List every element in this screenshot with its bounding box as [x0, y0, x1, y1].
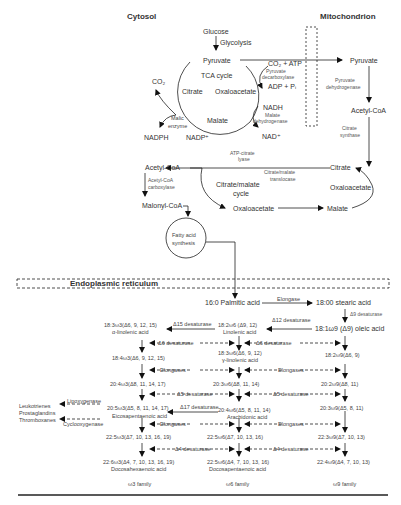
w6-20-4-1: 20:4ω6(Δ5, 8, 11, 14) — [218, 407, 271, 413]
d5-desaturase-right: Δ5 desaturase — [273, 391, 308, 397]
adp-pi: ADP + Pᵢ — [268, 83, 296, 91]
w3-20-4: 20:4ω3(Δ8, 11, 14, 17) — [110, 381, 166, 387]
alinolenic-2: α-linolenic acid — [112, 329, 149, 335]
citrate-malate-cycle-1: Citrate/malate — [216, 181, 260, 189]
w9-22-3: 22:3ω9(Δ7, 10, 13) — [318, 434, 365, 440]
malic-enzyme-label-2: enzyme — [168, 123, 187, 129]
malic-enzyme-label-1: Malic — [171, 115, 184, 121]
co2-atp: CO₂ + ATP — [268, 60, 302, 68]
cs-label-1: Citrate — [342, 126, 357, 132]
elongases-right-2: Elongases — [278, 421, 304, 427]
d4-desaturase-right: Δ4 desaturase — [273, 446, 308, 452]
w6-22-5: 22:5ω6(Δ7, 10, 13, 16) — [207, 434, 263, 440]
d6-desaturase-right: Δ6 desaturase — [256, 340, 291, 346]
w3-22-6-2: Docosahexaenoic acid — [111, 466, 166, 472]
leukotrienes: Leukotrienes — [19, 403, 51, 409]
tca-cycle: TCA cycle — [201, 72, 233, 80]
cytosol-label: Cytosol — [127, 13, 156, 21]
mitochondrion-label: Mitochondrion — [320, 13, 376, 21]
d9-desaturase: Δ9 desaturase — [350, 312, 382, 318]
w3-20-5-2: Eicosapentaenoic acid — [112, 413, 167, 419]
alinolenic-1: 18:3ω3(Δ6, 9, 12, 15) — [104, 322, 157, 328]
mito-citrate: Citrate — [330, 164, 351, 172]
w6-22-5b-2: Docosapentaenoic acid — [209, 466, 266, 472]
malate-dh-2: dehydrogenase — [253, 119, 287, 125]
linoleic-1: 18:2ω6 (Δ9, 12) — [218, 322, 257, 328]
w3-20-5-1: 20:5ω3(Δ5, 8, 11, 14, 17) — [107, 405, 169, 411]
er-label: Endoplasmic reticulum — [70, 280, 158, 288]
w6-22-5b-1: 22:5ω6(Δ4, 7, 10, 13, 16) — [207, 459, 269, 465]
pyruvate: Pyruvate — [203, 57, 231, 65]
pdh-label-2: dehydrogenase — [326, 85, 360, 91]
w3-22-5: 22:5ω3(Δ7, 10, 13, 16, 19) — [106, 434, 171, 440]
citrate-malate-cycle-2: cycle — [233, 190, 249, 198]
elongases-left-2: Elongases — [160, 421, 186, 427]
fas-label-2: synthesis — [172, 240, 195, 246]
pyruvate-decarboxylase-2: decarboxylase — [262, 75, 294, 81]
w3-18-4: 18:4ω3(Δ6, 9, 12, 15) — [112, 355, 165, 361]
mito-oxaloacetate: Oxaloacetate — [330, 184, 371, 192]
palmitic-acid: 16:0 Palmitic acid — [205, 299, 260, 307]
w3-22-6-1: 22:6ω3(Δ4, 7, 10, 13, 16, 19) — [103, 459, 174, 465]
w6-18-3-2: γ-linolenic acid — [222, 357, 258, 363]
w6-family: ω6 family — [226, 481, 249, 487]
w6-18-3-1: 18:3ω6(Δ6, 9, 12) — [218, 350, 262, 356]
d5-desaturase-left: Δ5 desaturase — [177, 391, 212, 397]
pdh-label-1: Pyruvate — [335, 78, 355, 84]
glycolysis: Glycolysis — [220, 39, 252, 47]
nadph: NADPH — [144, 134, 169, 142]
mito-pyruvate: Pyruvate — [350, 57, 378, 65]
malonyl-coa: Malonyl-CoA — [142, 202, 182, 210]
lipoxygenase: Lipoxygenase — [67, 398, 101, 404]
translocase-2: translocase — [270, 177, 296, 183]
w9-22-4: 22:4ω9(Δ4, 7, 10, 13) — [317, 459, 370, 465]
w9-family: ω9 family — [333, 481, 356, 487]
translocase-1: Citrate/malate — [264, 170, 295, 176]
w9-18-2: 18:2ω9(Δ6, 9) — [325, 352, 360, 358]
elongases-right-1: Elongases — [278, 367, 304, 373]
oxaloacetate: Oxaloacetate — [215, 88, 256, 96]
linoleic-2: Linolenic acid — [223, 329, 256, 335]
oleic-acid: 18:1ω9 (Δ9) oleic acid — [315, 325, 384, 333]
d12-desaturase: Δ12 desaturase — [272, 317, 311, 323]
co2: CO₂ — [152, 78, 165, 86]
acc-label-2: carboxylase — [148, 185, 175, 191]
cyclooxygenase: Cyclooxygenase — [63, 421, 103, 427]
d17-desaturase: Δ17 desaturase — [180, 404, 219, 410]
d15-desaturase: Δ15 desaturase — [173, 321, 212, 327]
fas-label-1: Fatty acid — [172, 232, 196, 238]
acc-label-1: Acetyl-CoA — [148, 178, 173, 184]
prostaglandins: Prostaglandins — [19, 410, 55, 416]
w9-20-3: 20:3ω9(Δ5, 8, 11) — [320, 405, 363, 411]
nadh: NADH — [263, 104, 283, 112]
thromboxanes: Thromboxanes — [19, 417, 56, 423]
d6-desaturase-left: Δ6 desaturase — [158, 340, 193, 346]
citrate: Citrate — [182, 88, 203, 96]
elongases-left-1: Elongases — [160, 367, 186, 373]
mito-acetyl-coa: Acetyl-CoA — [351, 107, 386, 115]
acetyl-coa: Acetyl-CoA — [145, 164, 180, 172]
mito-malate: Malate — [327, 205, 348, 213]
nad: NAD⁺ — [262, 133, 281, 141]
w6-20-4-2: Arachidonic acid — [227, 414, 267, 420]
glucose: Glucose — [203, 28, 229, 36]
nadp: NADP⁺ — [186, 134, 209, 142]
cs-label-2: synthase — [340, 133, 360, 139]
w3-family: ω3 family — [128, 481, 151, 487]
atp-citrate-lyase-2: lyase — [238, 157, 250, 163]
d4-desaturase-left: Δ4 desaturase — [175, 446, 210, 452]
w9-20-2: 20:2ω9(Δ8, 11) — [321, 381, 358, 387]
w6-20-3: 20:3ω6(Δ8, 11, 14) — [213, 381, 259, 387]
stearic-acid: 18:00 stearic acid — [316, 299, 371, 307]
oxaloacetate-2: Oxaloacetate — [233, 205, 274, 213]
malate: Malate — [207, 117, 228, 125]
elongase-label: Elongase — [277, 296, 300, 302]
